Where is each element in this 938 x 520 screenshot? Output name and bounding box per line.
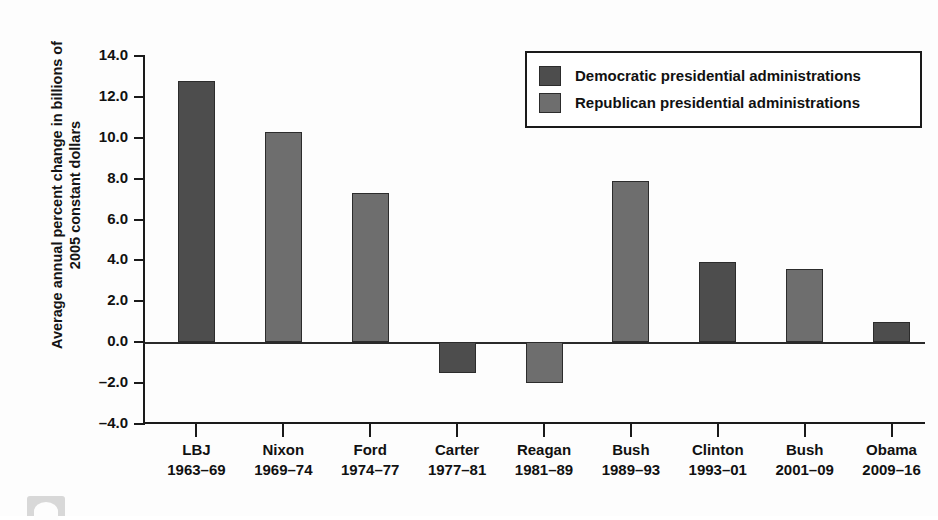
x-axis-label-obama-2009: Obama2009–16	[837, 440, 938, 480]
bar-reagan-1981	[526, 342, 563, 383]
y-axis-tick-label: –4.0	[99, 414, 128, 431]
legend-swatch-democratic	[539, 66, 561, 86]
x-axis-label-name: Obama	[866, 441, 917, 458]
y-axis-tick: 0.0	[134, 341, 145, 343]
x-axis-tick	[456, 424, 458, 437]
x-axis-tick	[369, 424, 371, 437]
y-axis-tick-label: 2.0	[107, 291, 128, 308]
y-axis-tick-label: 10.0	[99, 128, 128, 145]
legend-label-republican: Republican presidential administrations	[575, 93, 860, 112]
y-axis-tick: 14.0	[134, 55, 145, 57]
x-axis-tick	[543, 424, 545, 437]
y-axis-tick: 8.0	[134, 178, 145, 180]
bar-nixon-1969	[265, 132, 302, 343]
scan-artifact	[27, 496, 65, 516]
y-axis-tick: –2.0	[134, 382, 145, 384]
x-axis-label-years: 2009–16	[837, 460, 938, 480]
x-axis-label-name: Reagan	[517, 441, 571, 458]
y-axis-tick: 12.0	[134, 96, 145, 98]
y-axis-line	[143, 56, 145, 424]
x-axis-label-name: Bush	[612, 441, 650, 458]
x-axis-tick	[630, 424, 632, 437]
y-axis-tick: 6.0	[134, 219, 145, 221]
x-axis-label-name: LBJ	[182, 441, 210, 458]
x-axis-line	[143, 422, 925, 424]
x-axis-tick	[891, 424, 893, 437]
y-axis-tick: 2.0	[134, 300, 145, 302]
bar-carter-1977	[439, 342, 476, 373]
x-axis-tick	[717, 424, 719, 437]
x-axis-label-name: Nixon	[262, 441, 304, 458]
x-axis-label-name: Carter	[435, 441, 479, 458]
legend-item-democratic: Democratic presidential administrations	[539, 62, 908, 89]
legend-swatch-republican	[539, 93, 561, 113]
bar-clinton-1993	[699, 262, 736, 342]
legend-label-democratic: Democratic presidential administrations	[575, 66, 861, 85]
y-axis-tick-label: 6.0	[107, 210, 128, 227]
x-axis-label-name: Ford	[354, 441, 387, 458]
y-axis-tick-label: 8.0	[107, 169, 128, 186]
x-axis-label-name: Clinton	[692, 441, 744, 458]
y-axis-tick: 4.0	[134, 259, 145, 261]
chart-legend: Democratic presidential administrations …	[525, 51, 922, 128]
bar-bush-1989	[612, 181, 649, 343]
y-axis-tick-label: 0.0	[107, 332, 128, 349]
clipped-header-text	[0, 0, 938, 7]
bar-ford-1974	[352, 193, 389, 342]
x-axis-tick	[804, 424, 806, 437]
bar-lbj-1963	[178, 81, 215, 343]
y-axis-tick: 10.0	[134, 137, 145, 139]
y-axis-tick-label: –2.0	[99, 373, 128, 390]
y-axis-tick-label: 4.0	[107, 250, 128, 267]
y-axis-title: Average annual percent change in billion…	[48, 30, 88, 360]
y-axis-tick-label: 12.0	[99, 87, 128, 104]
y-axis-tick: –4.0	[134, 423, 145, 425]
x-axis-tick	[195, 424, 197, 437]
bar-bush-2001	[786, 269, 823, 343]
x-axis-tick	[282, 424, 284, 437]
legend-item-republican: Republican presidential administrations	[539, 89, 908, 116]
x-axis-label-name: Bush	[786, 441, 824, 458]
y-axis-tick-label: 14.0	[99, 46, 128, 63]
bar-obama-2009	[873, 322, 910, 342]
